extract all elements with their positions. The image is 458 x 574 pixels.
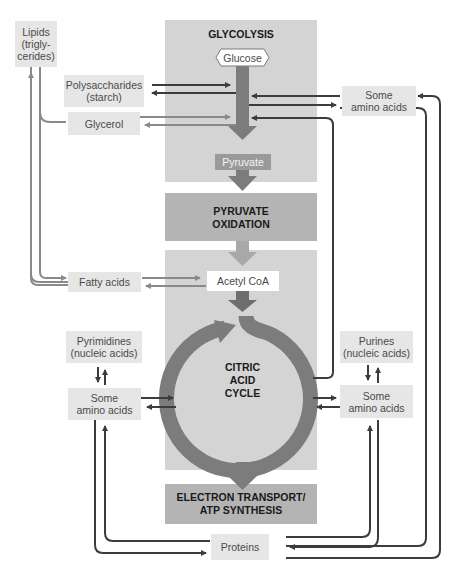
amino-acids-left-box: Some amino acids bbox=[68, 388, 141, 420]
pyruvate-oxidation-label-line2: OXIDATION bbox=[212, 218, 270, 231]
purines-line1: Purines bbox=[359, 335, 395, 347]
fatty-acids-box: Fatty acids bbox=[68, 272, 141, 292]
polysaccharides-line1: Polysaccharides bbox=[66, 79, 142, 91]
lipids-line1: Lipids bbox=[22, 26, 49, 38]
amino-left-line1: Some bbox=[91, 392, 118, 404]
pyrimidines-line2: (nucleic acids) bbox=[70, 347, 137, 359]
pyrimidines-box: Pyrimidines (nucleic acids) bbox=[66, 331, 142, 363]
electron-transport-label: ELECTRON TRANSPORT/ ATP SYNTHESIS bbox=[165, 490, 317, 518]
pyruvate-oxidation-label: PYRUVATE OXIDATION bbox=[165, 204, 317, 232]
amino-acids-top-box: Some amino acids bbox=[342, 86, 416, 116]
pyruvate-box: Pyruvate bbox=[215, 154, 271, 170]
etc-label-line1: ELECTRON TRANSPORT/ bbox=[177, 491, 306, 504]
polysaccharides-line2: (starch) bbox=[86, 91, 122, 103]
amino-top-line1: Some bbox=[365, 89, 392, 101]
citric-label-line2: ACID bbox=[230, 374, 256, 387]
citric-acid-cycle-label: CITRIC ACID CYCLE bbox=[200, 360, 285, 400]
lipids-line2: (trigly- bbox=[21, 38, 50, 50]
etc-label-line2: ATP SYNTHESIS bbox=[200, 504, 282, 517]
amino-right-line2: amino acids bbox=[348, 402, 404, 414]
amino-left-line2: amino acids bbox=[76, 404, 132, 416]
proteins-box: Proteins bbox=[211, 534, 269, 560]
amino-right-line1: Some bbox=[363, 390, 390, 402]
glucose-label: Glucose bbox=[215, 48, 270, 67]
lipids-line3: cerides) bbox=[17, 50, 54, 62]
purines-line2: (nucleic acids) bbox=[343, 347, 410, 359]
polysaccharides-box: Polysaccharides (starch) bbox=[64, 75, 144, 107]
amino-acids-right-box: Some amino acids bbox=[340, 385, 413, 418]
metabolism-diagram: GLYCOLYSIS PYRUVATE OXIDATION CITRIC ACI… bbox=[0, 0, 458, 574]
pyruvate-oxidation-label-line1: PYRUVATE bbox=[213, 205, 269, 218]
glycolysis-label: GLYCOLYSIS bbox=[165, 27, 317, 41]
pyrimidines-line1: Pyrimidines bbox=[77, 335, 131, 347]
lipids-box: Lipids (trigly- cerides) bbox=[15, 21, 57, 67]
citric-label-line1: CITRIC bbox=[225, 361, 260, 374]
glycerol-box: Glycerol bbox=[68, 112, 140, 135]
citric-label-line3: CYCLE bbox=[225, 387, 261, 400]
purines-box: Purines (nucleic acids) bbox=[340, 331, 413, 363]
amino-top-line2: amino acids bbox=[351, 101, 407, 113]
acetyl-coa-box: Acetyl CoA bbox=[207, 271, 279, 291]
